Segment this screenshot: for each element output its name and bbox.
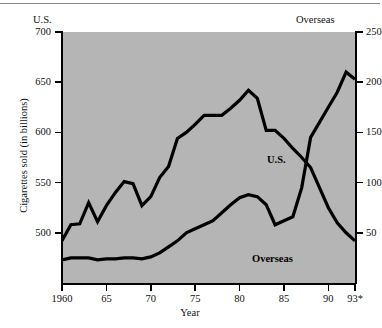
right-tick-label: 150 (366, 126, 382, 137)
left-axis-header: U.S. (33, 14, 52, 25)
plot-area: U.S. Overseas (62, 32, 355, 283)
right-tick (356, 31, 363, 33)
axis-line-right (355, 31, 357, 284)
x-tick (239, 284, 241, 291)
left-tick (55, 132, 62, 134)
x-tick-label: 1960 (42, 293, 82, 304)
left-tick (55, 31, 62, 33)
axis-line-left (61, 31, 63, 284)
x-tick-label: 65 (86, 293, 126, 304)
series-label-us: U.S. (267, 154, 286, 165)
x-tick (328, 284, 330, 291)
x-tick (61, 284, 63, 291)
x-tick-label: 80 (220, 293, 260, 304)
x-tick (283, 284, 285, 291)
right-tick-label: 100 (366, 177, 382, 188)
line-series-us (62, 90, 355, 241)
top-divider-rule (0, 3, 380, 4)
right-tick (356, 132, 363, 134)
left-tick-label: 600 (35, 126, 51, 137)
right-tick (356, 232, 363, 234)
x-tick-label: 85 (264, 293, 304, 304)
left-tick-label: 700 (35, 26, 51, 37)
left-tick-label: 650 (35, 76, 51, 87)
left-tick (55, 182, 62, 184)
y-axis-title: Cigarettes sold (in billions) (18, 71, 29, 241)
right-tick-label: 200 (366, 76, 382, 87)
x-tick (354, 284, 356, 291)
right-tick (356, 182, 363, 184)
x-tick-label: 93* (335, 293, 375, 304)
x-tick-label: 70 (131, 293, 171, 304)
x-tick (106, 284, 108, 291)
right-tick (356, 81, 363, 83)
left-tick (55, 81, 62, 83)
x-tick-label: 75 (175, 293, 215, 304)
x-axis-title: Year (0, 307, 380, 318)
series-canvas (62, 32, 355, 283)
left-tick-label: 550 (35, 177, 51, 188)
right-tick-label: 250 (366, 26, 382, 37)
left-tick (55, 232, 62, 234)
series-label-overseas: Overseas (252, 253, 293, 264)
x-tick (150, 284, 152, 291)
left-tick-label: 500 (35, 227, 51, 238)
right-tick-label: 50 (366, 227, 377, 238)
x-tick (194, 284, 196, 291)
right-axis-header: Overseas (296, 14, 334, 25)
